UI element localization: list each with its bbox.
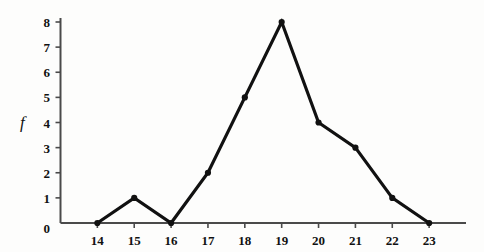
data-point-marker <box>205 170 211 176</box>
data-point-marker <box>242 94 248 100</box>
data-point-marker <box>131 195 137 201</box>
data-point-marker <box>168 220 174 226</box>
y-tick-label: 6 <box>30 66 50 79</box>
y-tick-label: 7 <box>30 41 50 54</box>
x-tick-label: 14 <box>91 234 104 247</box>
y-tick-label: 2 <box>30 166 50 179</box>
data-point-marker <box>315 119 321 125</box>
data-point-marker <box>352 145 358 151</box>
data-point-marker <box>94 220 100 226</box>
y-tick-label: 0 <box>30 222 50 235</box>
x-tick-label: 15 <box>128 234 141 247</box>
y-tick-label: 1 <box>30 191 50 204</box>
x-tick-label: 18 <box>238 234 251 247</box>
y-tick-label: 3 <box>30 141 50 154</box>
data-point-marker <box>426 220 432 226</box>
x-tick-label: 22 <box>386 234 399 247</box>
frequency-polygon-chart: f 012345678 14151617181920212223 <box>0 0 484 252</box>
x-tick-label: 20 <box>312 234 325 247</box>
x-tick-label: 17 <box>201 234 214 247</box>
y-axis-label: f <box>20 114 25 131</box>
x-tick-label: 23 <box>423 234 436 247</box>
data-point-markers <box>94 19 432 226</box>
data-series-line <box>97 22 429 223</box>
x-tick-label: 16 <box>165 234 178 247</box>
chart-plot-area <box>0 0 484 252</box>
y-tick-label: 4 <box>30 116 50 129</box>
data-point-marker <box>389 195 395 201</box>
x-tick-label: 19 <box>275 234 288 247</box>
data-point-marker <box>279 19 285 25</box>
x-tick-label: 21 <box>349 234 362 247</box>
y-tick-label: 8 <box>30 16 50 29</box>
y-tick-label: 5 <box>30 91 50 104</box>
